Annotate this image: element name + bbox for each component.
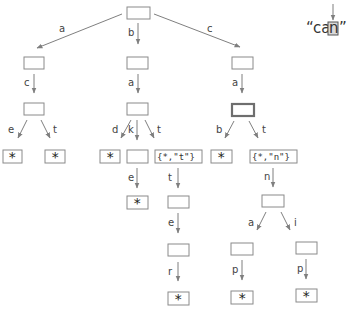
edge-label-cat-n: n [264,171,270,182]
node-catn [262,195,284,207]
query-close-quote: ” [339,19,347,37]
node-ca-current [232,104,254,116]
edge-ba-t [145,120,154,138]
edge-label-c-a: a [232,77,238,88]
terminal-marker: * [302,288,310,304]
terminal-marker: * [238,290,246,306]
node-ba [127,103,148,115]
edge-label-ac-t: t [53,124,57,135]
edge-label-catn-a: a [248,217,254,228]
edge-label-ba-k: k [128,124,134,135]
edge-ca-t [249,121,258,138]
edge-label-catna-p: p [232,264,238,275]
node-c [232,57,253,69]
edge-root-c [154,14,240,47]
terminal-marker: * [106,149,114,165]
node-catni [296,242,317,254]
node-catna [231,243,253,255]
terminal-marker: * [133,195,141,211]
edge-label-catni-p: p [297,263,303,274]
edge-root-a [37,14,122,48]
edge-label-ca-b: b [216,124,222,135]
edge-label-ac-e: e [8,124,14,135]
terminal-marker: * [217,149,225,165]
terminal-marker: * [174,291,182,307]
edge-ac-e [18,120,27,138]
edge-label-b-a: a [128,77,134,88]
edge-label-root-b: b [128,27,134,38]
node-a [24,57,44,69]
node-ac [24,103,44,115]
query-string: “ ca n ” [306,19,347,37]
node-batt [168,196,189,208]
edge-label-bat-t: t [168,172,172,183]
query-cursor-char: n [329,19,339,37]
node-batte [168,244,189,256]
edge-catn-a [257,212,266,230]
edge-catn-i [281,212,290,230]
edge-label-batt-e: e [168,217,174,228]
node-bak [127,150,148,163]
edge-ca-b [225,121,234,138]
root-node [127,7,150,19]
edge-label-catn-i: i [294,217,297,228]
terminal-marker: * [51,149,59,165]
node-value-bat: {*,"t"} [157,152,195,162]
terminal-marker: * [8,149,16,165]
edge-ac-t [41,120,50,138]
edge-label-ca-t: t [262,124,266,135]
edge-label-root-c: c [207,23,213,34]
edge-label-ba-t: t [157,124,161,135]
edge-label-ba-d: d [112,124,118,135]
edge-label-a-c: c [24,77,30,88]
edge-label-root-a: a [59,23,65,34]
edge-label-batte-r: r [168,266,173,277]
trie-diagram: a b c c a a e t d k t b t * * * {*,"t"} … [0,0,349,310]
edge-label-bak-e: e [128,172,134,183]
node-value-cat: {*,"n"} [252,152,290,162]
node-b [127,57,148,69]
